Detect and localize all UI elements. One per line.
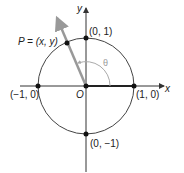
- point-p: [65, 41, 70, 46]
- point-label-0-neg1: (0, −1): [90, 139, 119, 149]
- y-axis-label: y: [77, 4, 82, 14]
- point-neg1-0: [36, 84, 41, 89]
- point-1-0: [132, 84, 137, 89]
- x-axis-label: x: [165, 84, 170, 94]
- point-label-neg1-0: (−1, 0): [10, 90, 39, 100]
- theta-label: θ: [103, 59, 108, 68]
- point-origin: [84, 84, 89, 89]
- point-label-1-0: (1, 0): [136, 90, 159, 100]
- point-label-0-1: (0, 1): [89, 27, 112, 37]
- point-0-1: [84, 36, 89, 41]
- origin-label: O: [76, 90, 84, 100]
- terminal-ray: [57, 18, 86, 86]
- point-0-neg1: [84, 132, 89, 137]
- unit-circle-diagram: y x O (0, 1) (1, 0) (−1, 0) (0, −1) P = …: [0, 0, 184, 173]
- point-p-label: P = (x, y): [18, 37, 58, 47]
